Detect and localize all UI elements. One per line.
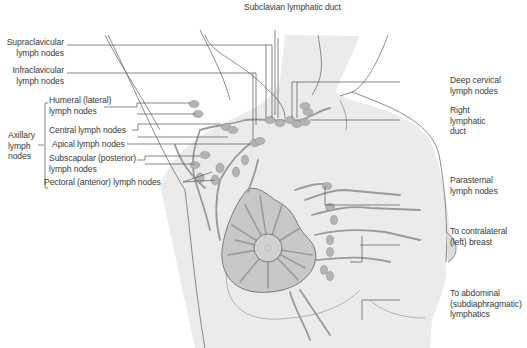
label-pectoral-anterior-lymph-nodes: Pectoral (anterior) lymph nodes bbox=[44, 177, 161, 188]
label-right-lymphatic-duct: Right lymphatic duct bbox=[450, 105, 485, 137]
label-central-lymph-nodes: Central lymph nodes bbox=[49, 125, 126, 136]
breast-lymphatics-illustration bbox=[0, 0, 527, 348]
label-to-contralateral-breast: To contralateral (left) breast bbox=[450, 226, 507, 247]
label-apical-lymph-nodes: Apical lymph nodes bbox=[52, 139, 125, 150]
label-humeral-lateral-lymph-nodes: Humeral (lateral) lymph nodes bbox=[49, 95, 111, 116]
label-to-abdominal-lymphatics: To abdominal (subdiaphragmatic) lymphati… bbox=[450, 288, 522, 320]
label-subclavian-lymphatic-duct: Subclavian lymphatic duct bbox=[244, 2, 341, 13]
label-parasternal-lymph-nodes: Parasternal lymph nodes bbox=[450, 175, 498, 196]
torso-silhouette bbox=[105, 30, 456, 348]
label-supraclavicular-lymph-nodes: Supraclavicular lymph nodes bbox=[2, 37, 64, 58]
label-deep-cervical-lymph-nodes: Deep cervical lymph nodes bbox=[450, 75, 501, 96]
label-infraclavicular-lymph-nodes: Infraclavicular lymph nodes bbox=[2, 65, 64, 86]
label-axillary-lymph-nodes: Axillary lymph nodes bbox=[8, 130, 35, 162]
label-subscapular-posterior-lymph-nodes: Subscapular (posterior) lymph nodes bbox=[49, 153, 136, 174]
